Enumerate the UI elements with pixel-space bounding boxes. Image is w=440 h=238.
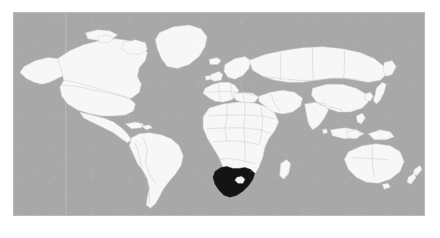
map-frame <box>13 12 425 216</box>
land-sri-lanka <box>322 129 327 134</box>
world-map <box>14 13 424 215</box>
land-ireland <box>205 75 211 80</box>
locator-map-page <box>0 0 440 238</box>
